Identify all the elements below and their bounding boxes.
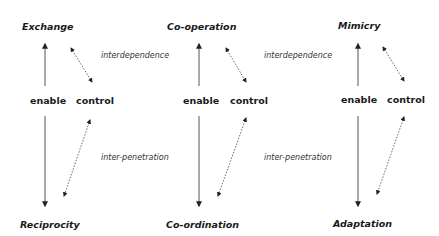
control-up-dotted-arrow: [71, 48, 92, 82]
bottom-node-label: Reciprocity: [20, 219, 80, 230]
bottom-node-label: Adaptation: [333, 218, 392, 229]
control-up-dotted-arrow: [383, 47, 404, 81]
relation-upper-label: interdependence: [101, 51, 169, 60]
enable-label: enable: [341, 94, 377, 105]
relation-lower-label: inter-penetration: [101, 153, 169, 162]
relation-lower-label: inter-penetration: [264, 153, 332, 162]
top-node-label: Exchange: [22, 21, 73, 32]
control-label: control: [76, 95, 114, 106]
enable-label: enable: [30, 95, 66, 106]
control-label: control: [387, 94, 425, 105]
control-down-dotted-arrow: [377, 117, 404, 194]
control-up-dotted-arrow: [226, 48, 246, 82]
diagram-arrows: [0, 0, 439, 236]
top-node-label: Mimicry: [338, 20, 380, 31]
bottom-node-label: Co-ordination: [166, 219, 239, 230]
enable-label: enable: [183, 95, 219, 106]
top-node-label: Co-operation: [167, 21, 236, 32]
control-label: control: [230, 95, 268, 106]
control-down-dotted-arrow: [218, 118, 246, 196]
control-down-dotted-arrow: [64, 120, 90, 196]
relation-upper-label: interdependence: [264, 51, 332, 60]
